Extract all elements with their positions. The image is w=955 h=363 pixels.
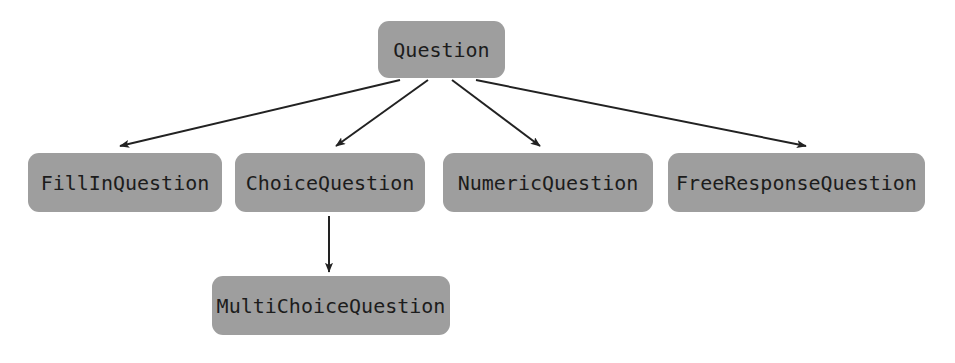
node-choice-question-label: ChoiceQuestion (246, 173, 415, 193)
node-question-label: Question (393, 40, 489, 60)
node-choice-question[interactable]: ChoiceQuestion (235, 153, 425, 212)
node-multi-choice-question-label: MultiChoiceQuestion (217, 296, 446, 316)
class-hierarchy-diagram: Question FillInQuestion ChoiceQuestion N… (0, 0, 955, 363)
node-numeric-question[interactable]: NumericQuestion (443, 153, 653, 212)
edge-question-to-choice (336, 80, 428, 146)
node-numeric-question-label: NumericQuestion (458, 173, 639, 193)
node-question[interactable]: Question (378, 21, 505, 78)
node-fill-in-question-label: FillInQuestion (41, 173, 210, 193)
node-free-response-question-label: FreeResponseQuestion (676, 173, 917, 193)
edge-question-to-fillin (120, 80, 400, 146)
node-fill-in-question[interactable]: FillInQuestion (28, 153, 222, 212)
node-free-response-question[interactable]: FreeResponseQuestion (668, 153, 925, 212)
node-multi-choice-question[interactable]: MultiChoiceQuestion (212, 276, 450, 335)
